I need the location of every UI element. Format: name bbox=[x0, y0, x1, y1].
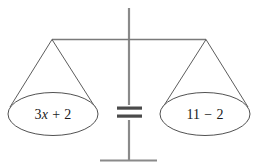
equals-sign-top-bar bbox=[117, 107, 142, 110]
left-constant: 2 bbox=[64, 107, 71, 122]
balance-scale-figure: 3x+2 11−2 bbox=[0, 0, 258, 168]
balance-scale-drawing: 3x+2 11−2 bbox=[0, 0, 258, 168]
left-expression: 3x+2 bbox=[35, 107, 72, 122]
left-variable: x bbox=[41, 107, 49, 122]
equals-sign-bottom-bar bbox=[117, 115, 142, 118]
right-first-term: 11 bbox=[186, 107, 200, 122]
right-operator: − bbox=[204, 107, 212, 122]
left-operator: + bbox=[52, 107, 60, 122]
right-second-term: 2 bbox=[216, 107, 223, 122]
left-coefficient: 3 bbox=[35, 107, 42, 122]
right-expression: 11−2 bbox=[186, 107, 223, 122]
